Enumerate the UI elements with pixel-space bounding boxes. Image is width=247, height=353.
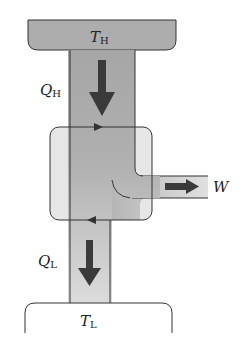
heat-flow-channel [68,50,160,303]
heat-out-label: QL [38,252,57,270]
work-label: W [213,178,230,196]
heat-in-label: QH [40,81,61,99]
cold-reservoir: TL [25,303,172,333]
hot-reservoir: TH [28,20,176,50]
heat-engine-diagram: TH QH W QL [0,0,247,353]
